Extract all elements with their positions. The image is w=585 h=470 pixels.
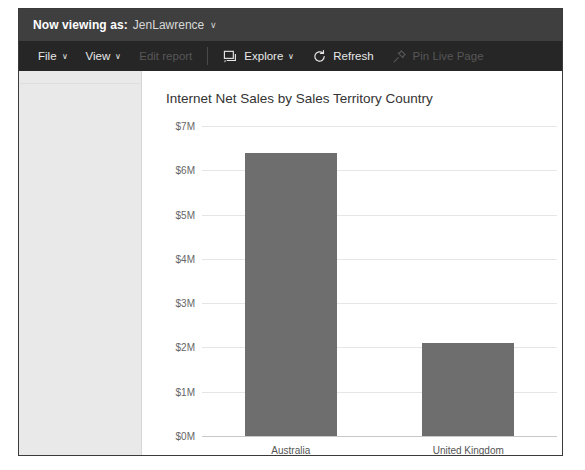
chart-canvas: Internet Net Sales by Sales Territory Co… (142, 71, 562, 455)
now-viewing-as-label: Now viewing as: (33, 18, 128, 32)
y-axis-tick-label: $7M (176, 121, 195, 132)
toolbar-separator (207, 47, 208, 65)
chart-bar[interactable] (422, 343, 514, 436)
refresh-icon (312, 49, 327, 64)
chart-title: Internet Net Sales by Sales Territory Co… (166, 91, 433, 106)
report-window: Now viewing as: JenLawrence ∨ File∨View∨… (18, 8, 563, 456)
toolbar-item-refresh[interactable]: Refresh (303, 41, 382, 71)
y-axis-tick-label: $6M (176, 165, 195, 176)
chart-axis-line (202, 436, 557, 437)
pin-icon (392, 49, 407, 64)
chevron-down-icon: ∨ (62, 53, 68, 61)
toolbar-item-explore[interactable]: Explore∨ (214, 41, 303, 71)
chart-bar[interactable] (245, 153, 337, 436)
toolbar-item-label: View (86, 50, 111, 62)
y-axis-tick-label: $0M (176, 431, 195, 442)
y-axis-tick-label: $2M (176, 342, 195, 353)
x-axis-tick-label: United Kingdom (433, 445, 504, 456)
bar-chart-plot[interactable]: $0M$1M$2M$3M$4M$5M$6M$7MAustraliaUnited … (202, 126, 557, 436)
x-axis-tick-label: Australia (271, 445, 310, 456)
toolbar-item-edit-report: Edit report (130, 41, 201, 71)
toolbar-item-label: Explore (244, 50, 283, 62)
y-axis-tick-label: $3M (176, 298, 195, 309)
chevron-down-icon: ∨ (115, 53, 121, 61)
explore-icon (223, 49, 238, 64)
chart-gridline (202, 126, 557, 127)
report-body: Internet Net Sales by Sales Territory Co… (19, 71, 562, 455)
now-viewing-as-user[interactable]: JenLawrence (133, 18, 204, 32)
screenshot-root: Now viewing as: JenLawrence ∨ File∨View∨… (0, 0, 585, 470)
y-axis-tick-label: $1M (176, 386, 195, 397)
toolbar-item-label: Refresh (333, 50, 373, 62)
report-toolbar: File∨View∨Edit reportExplore∨RefreshPin … (19, 41, 562, 71)
chevron-down-icon: ∨ (288, 53, 294, 61)
toolbar-item-view[interactable]: View∨ (77, 41, 131, 71)
left-panel-divider (19, 83, 141, 84)
toolbar-item-file[interactable]: File∨ (29, 41, 77, 71)
now-viewing-as-bar: Now viewing as: JenLawrence ∨ (19, 9, 562, 41)
toolbar-item-label: File (38, 50, 57, 62)
toolbar-item-label: Pin Live Page (413, 50, 484, 62)
y-axis-tick-label: $5M (176, 209, 195, 220)
left-navigation-panel[interactable] (19, 71, 142, 455)
y-axis-tick-label: $4M (176, 253, 195, 264)
toolbar-item-pin-live-page: Pin Live Page (383, 41, 493, 71)
toolbar-item-label: Edit report (139, 50, 192, 62)
chevron-down-icon[interactable]: ∨ (210, 21, 217, 30)
